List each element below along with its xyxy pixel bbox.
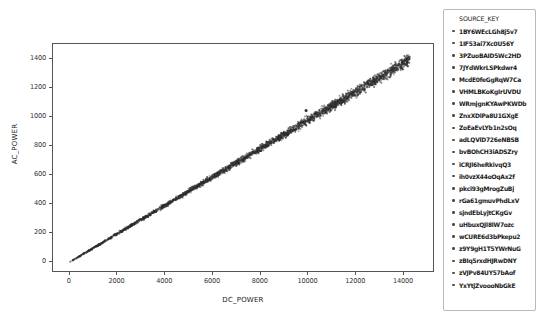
figure-canvas: 0200040006000800010000120001400002004006… (0, 0, 546, 323)
legend-marker-icon (448, 260, 459, 263)
legend-item-label: uHbuxQJl8lW7ozc (459, 221, 514, 228)
y-tick-label: 400 (34, 199, 46, 207)
y-axis-label: AC_POWER (11, 84, 19, 204)
legend-item[interactable]: ih0vzX44oOqAx2f (448, 170, 532, 182)
legend-marker-icon (448, 223, 459, 226)
legend-item[interactable]: sjndEbLyjtCKgGv (448, 206, 532, 218)
legend-item-label: WRmjgnKYAwPKWDb (459, 100, 526, 107)
legend-item[interactable]: ZoEaEvLYb1n2sOq (448, 122, 532, 134)
legend-item-label: ih0vzX44oOqAx2f (459, 173, 515, 180)
legend-item-label: ZnxXDlPa8U1GXgE (459, 112, 518, 119)
x-tick-label: 4000 (156, 277, 172, 285)
y-tick-label: 200 (34, 228, 46, 236)
legend-marker-icon (448, 90, 459, 93)
legend-item-label: wCURE6d3bPkepu2 (459, 233, 520, 240)
legend-marker-icon (448, 30, 459, 33)
y-tick-label: 1000 (30, 112, 46, 120)
scatter-plot-axes (52, 43, 434, 272)
x-tick-label: 8000 (252, 277, 268, 285)
legend-item[interactable]: zBIq5rxdHJRwDNY (448, 255, 532, 267)
legend-item[interactable]: 3PZuoBAID5Wc2HD (448, 49, 532, 61)
x-tick-mark (69, 272, 70, 275)
x-tick-label: 10000 (297, 277, 317, 285)
x-tick-mark (307, 272, 308, 275)
legend-item-label: ZoEaEvLYb1n2sOq (459, 124, 517, 131)
legend-item[interactable]: McdE0feGgRqW7Ca (448, 73, 532, 85)
x-tick-mark (164, 272, 165, 275)
y-tick-label: 0 (42, 257, 46, 265)
legend-item-label: zBIq5rxdHJRwDNY (459, 257, 516, 264)
legend-marker-icon (448, 42, 459, 45)
x-tick-label: 12000 (345, 277, 365, 285)
legend-marker-icon (448, 114, 459, 117)
y-tick-mark (49, 58, 52, 59)
legend-item[interactable]: pkci93gMrogZuBj (448, 182, 532, 194)
y-tick-label: 600 (34, 170, 46, 178)
legend-item-label: McdE0feGgRqW7Ca (459, 76, 521, 83)
legend-item-label: 1BY6WEcLGh8j5v7 (459, 28, 518, 35)
legend-marker-icon (448, 127, 459, 130)
legend-item[interactable]: rGa61gmuvPhdLxV (448, 194, 532, 206)
legend-item[interactable]: 1BY6WEcLGh8j5v7 (448, 25, 532, 37)
legend-item[interactable]: wCURE6d3bPkepu2 (448, 231, 532, 243)
y-tick-mark (49, 87, 52, 88)
legend-item[interactable]: adLQVlD726eNBSB (448, 134, 532, 146)
legend-item-label: rGa61gmuvPhdLxV (459, 197, 519, 204)
x-tick-label: 2000 (108, 277, 124, 285)
x-tick-mark (116, 272, 117, 275)
legend-item[interactable]: 1IF53ai7Xc0U56Y (448, 37, 532, 49)
x-tick-mark (260, 272, 261, 275)
y-tick-mark (49, 145, 52, 146)
legend-item-label: VHMLBKoKgIrUVDU (459, 88, 521, 95)
legend-item[interactable]: bvBOhCH3iADSZry (448, 146, 532, 158)
legend-item[interactable]: z9Y9gH1T5YWrNuG (448, 243, 532, 255)
x-tick-mark (355, 272, 356, 275)
y-tick-mark (49, 174, 52, 175)
legend-marker-icon (448, 102, 459, 105)
legend-marker-icon (448, 284, 459, 287)
x-tick-label: 14000 (393, 277, 413, 285)
legend-item-label: z9Y9gH1T5YWrNuG (459, 245, 521, 252)
legend-item[interactable]: YxYtjZvoooNbGkE (448, 279, 532, 291)
legend-marker-icon (448, 78, 459, 81)
x-tick-label: 0 (67, 277, 71, 285)
legend-marker-icon (448, 163, 459, 166)
y-tick-mark (49, 261, 52, 262)
legend-item[interactable]: zVJPv84UY57bAof (448, 267, 532, 279)
legend-item-label: iCRJl6heRkivqQ3 (459, 161, 511, 168)
legend-box[interactable]: SOURCE_KEY 1BY6WEcLGh8j5v71IF53ai7Xc0U56… (443, 9, 536, 311)
legend-marker-icon (448, 272, 459, 275)
x-axis-label: DC_POWER (52, 296, 434, 304)
legend-item-label: YxYtjZvoooNbGkE (459, 282, 515, 289)
legend-item[interactable]: 7JYdWkrLSPkdwr4 (448, 61, 532, 73)
x-tick-label: 6000 (204, 277, 220, 285)
legend-item[interactable]: ZnxXDlPa8U1GXgE (448, 110, 532, 122)
legend-items-list: 1BY6WEcLGh8j5v71IF53ai7Xc0U56Y3PZuoBAID5… (448, 25, 532, 291)
y-tick-label: 1400 (30, 54, 46, 62)
legend-item-label: 7JYdWkrLSPkdwr4 (459, 64, 517, 71)
y-tick-mark (49, 232, 52, 233)
legend-item-label: 1IF53ai7Xc0U56Y (459, 40, 514, 47)
y-tick-label: 800 (34, 141, 46, 149)
legend-marker-icon (448, 235, 459, 238)
y-tick-mark (49, 203, 52, 204)
x-tick-mark (212, 272, 213, 275)
legend-item-label: sjndEbLyjtCKgGv (459, 209, 512, 216)
legend-item-label: 3PZuoBAID5Wc2HD (459, 52, 521, 59)
legend-item-label: pkci93gMrogZuBj (459, 185, 514, 192)
legend-marker-icon (448, 54, 459, 57)
legend-marker-icon (448, 139, 459, 142)
legend-marker-icon (448, 151, 459, 154)
legend-item[interactable]: WRmjgnKYAwPKWDb (448, 98, 532, 110)
legend-marker-icon (448, 211, 459, 214)
y-tick-label: 1200 (30, 83, 46, 91)
legend-item-label: zVJPv84UY57bAof (459, 269, 515, 276)
legend-marker-icon (448, 187, 459, 190)
legend-marker-icon (448, 175, 459, 178)
y-tick-mark (49, 116, 52, 117)
legend-item[interactable]: iCRJl6heRkivqQ3 (448, 158, 532, 170)
legend-item[interactable]: uHbuxQJl8lW7ozc (448, 219, 532, 231)
legend-title: SOURCE_KEY (459, 15, 532, 22)
legend-item[interactable]: VHMLBKoKgIrUVDU (448, 85, 532, 97)
x-tick-mark (403, 272, 404, 275)
